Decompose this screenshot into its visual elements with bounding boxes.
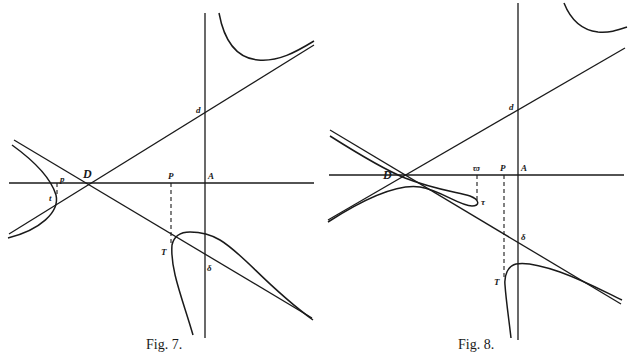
fig8-labels: D d P A ϖ τ T δ (382, 102, 527, 287)
fig8-asymptote-rising (328, 48, 625, 220)
fig8-curve-upper-right (564, 3, 627, 32)
fig8-caption: Fig. 8. (458, 337, 494, 353)
fig8-label-r: τ (481, 197, 486, 207)
fig8-label-P: P (500, 163, 506, 173)
fig8-label-T: T (494, 277, 500, 287)
fig8-label-delta: δ (521, 232, 526, 242)
fig8-label-w: ϖ (473, 163, 480, 173)
fig8-label-A: A (520, 163, 527, 173)
fig7-caption: Fig. 7. (146, 337, 182, 353)
fig8-curve-lower-right (505, 263, 622, 338)
fig8-label-D: D (382, 168, 392, 182)
fig8-asymptote-falling (330, 130, 621, 304)
figure-8-diagram: D d P A ϖ τ T δ (0, 0, 628, 359)
fig8-curve-loop (328, 136, 478, 222)
fig8-label-d: d (509, 102, 514, 112)
